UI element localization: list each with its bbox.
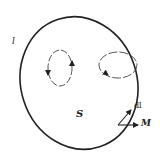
line-element-label-dl: dl bbox=[134, 102, 142, 110]
magnetization-current-diagram: l S dl M bbox=[0, 0, 160, 152]
boundary-current-loop bbox=[99, 52, 137, 78]
magnetization-label-M: M bbox=[141, 119, 151, 128]
diagram-canvas bbox=[0, 0, 160, 152]
surface-label-S: S bbox=[76, 109, 83, 119]
boundary-label-l: l bbox=[12, 37, 15, 46]
surface-boundary-curve bbox=[3, 1, 155, 152]
inner-current-loop bbox=[48, 50, 72, 86]
